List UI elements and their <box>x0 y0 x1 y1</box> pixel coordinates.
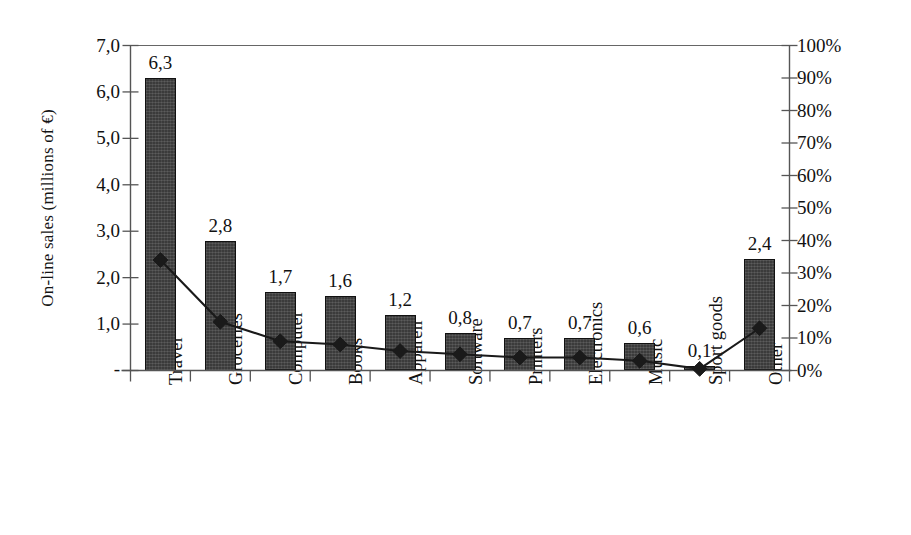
line-marker <box>513 350 528 365</box>
line-marker <box>692 361 707 376</box>
line-marker <box>393 344 408 359</box>
line-marker <box>453 347 468 362</box>
line-marker <box>273 334 288 349</box>
line-marker <box>752 321 767 336</box>
chart-container: On-line sales (millions of €) Percentage… <box>0 0 911 535</box>
line-marker <box>632 353 647 368</box>
line-marker <box>333 337 348 352</box>
chart-axes-and-line-series <box>0 0 911 535</box>
line-marker <box>572 350 587 365</box>
